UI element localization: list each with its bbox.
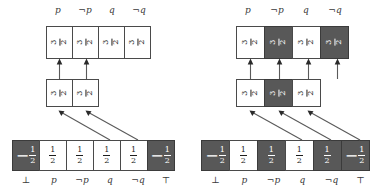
arrow-line-bot4-mid1 <box>90 113 139 140</box>
arrow-head-mid0-top0 <box>57 59 63 65</box>
left-arrow-layer <box>0 0 191 195</box>
right-arrow-layer <box>191 0 382 195</box>
left-vertical-arrows <box>57 59 90 80</box>
left-diagonal-arrows <box>59 111 139 141</box>
arrow-head-mid2-top2 <box>306 59 312 65</box>
arrow-line-bot4-mid1 <box>283 113 332 140</box>
diagram-left-panel: p ¬p q ¬q 3 2 3 2 <box>0 0 191 195</box>
right-vertical-arrows <box>248 59 341 80</box>
right-diagonal-arrows <box>250 111 361 141</box>
arrow-head-mid1-top1 <box>277 59 283 65</box>
arrow-head-topright-feed <box>335 59 341 65</box>
arrow-head-mid1-top1 <box>84 59 90 65</box>
figure-canvas: p ¬p q ¬q 3 2 3 2 <box>0 0 382 195</box>
arrow-line-bot5-mid2 <box>312 113 361 140</box>
arrow-head-mid0-top0 <box>248 59 254 65</box>
arrow-line-bot3-mid0 <box>254 113 303 140</box>
diagram-right-panel: p ¬p q ¬q 3 2 3 2 <box>191 0 382 195</box>
arrow-line-bot3-mid0 <box>63 113 111 140</box>
